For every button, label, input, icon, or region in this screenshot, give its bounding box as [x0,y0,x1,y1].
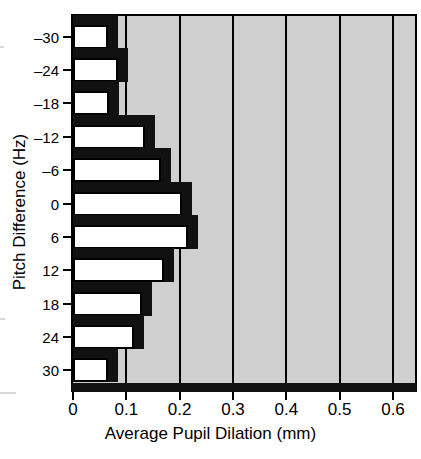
y-tick-label: 24 [42,328,59,345]
y-tick-label: 30 [42,362,59,379]
y-tick [63,303,71,305]
y-tick [63,136,71,138]
bar-face [73,25,108,49]
chart-figure: 00.10.20.30.40.50.6 –30–24–18–12–6061218… [0,0,421,459]
y-tick [63,102,71,104]
y-tick-label: –24 [34,62,59,79]
y-tick [63,236,71,238]
x-tick-label: 0.5 [328,400,352,420]
y-tick [63,69,71,71]
bar-face [73,58,118,82]
y-tick-label: 6 [51,228,59,245]
y-tick-label: 18 [42,295,59,312]
y-tick [63,36,71,38]
y-tick [63,203,71,205]
bar-face [73,325,134,349]
y-tick [63,169,71,171]
y-tick-label: –18 [34,95,59,112]
gridline [232,16,234,383]
bar-face [73,292,142,316]
x-tick [179,392,181,400]
y-tick [63,369,71,371]
bar-face [73,158,161,182]
x-tick [125,392,127,400]
x-tick-label: 0.3 [221,400,245,420]
x-axis-title: Average Pupil Dilation (mm) [0,424,421,444]
x-tick [392,392,394,400]
gridline [392,16,394,383]
bar-face [73,192,182,216]
y-axis-title: Pitch Difference (Hz) [10,42,30,382]
x-axis-baseline-bevel [405,383,417,392]
x-tick-label: 0.4 [275,400,299,420]
x-tick [285,392,287,400]
bar-face [73,125,145,149]
y-tick-label: –30 [34,28,59,45]
x-tick-label: 0.2 [168,400,192,420]
scan-artifact [0,392,16,394]
bar-face [73,225,188,249]
x-tick [232,392,234,400]
bar-face [73,91,109,115]
gridline [285,16,287,383]
gridline [339,16,341,383]
x-tick [339,392,341,400]
bar-face [73,258,164,282]
x-tick-label: 0.1 [115,400,139,420]
y-tick-label: 12 [42,262,59,279]
y-tick [63,336,71,338]
scan-artifact [0,46,4,48]
x-tick [72,392,74,400]
scan-artifact [0,318,5,320]
x-tick-label: 0 [68,400,77,420]
bar-face [73,358,108,382]
x-tick-label: 0.6 [381,400,405,420]
y-tick [63,269,71,271]
y-tick-label: 0 [51,195,59,212]
x-axis-baseline [71,383,417,392]
y-tick-label: –6 [42,162,59,179]
y-tick-label: –12 [34,128,59,145]
